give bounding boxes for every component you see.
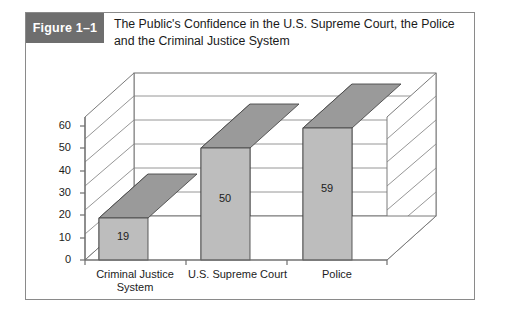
y-axis bbox=[80, 117, 85, 260]
bar-value-label-criminal-justice-system: 19 bbox=[106, 230, 140, 242]
figure-screenshot: Figure 1–1 The Public's Confidence in th… bbox=[0, 0, 505, 321]
x-axis bbox=[85, 260, 387, 265]
bar-value-label-us-supreme-court: 50 bbox=[208, 192, 242, 204]
x-category-label-criminal-justice-system: Criminal Justice System bbox=[80, 268, 190, 294]
x-category-label-police: Police bbox=[302, 268, 372, 281]
chart-canvas bbox=[25, 55, 475, 300]
y-tick-label-30: 30 bbox=[45, 186, 71, 198]
figure-title-line-1: The Public's Confidence in the U.S. Supr… bbox=[114, 16, 464, 33]
x-category-label-us-supreme-court: U.S. Supreme Court bbox=[180, 268, 295, 281]
y-tick-label-50: 50 bbox=[45, 141, 71, 153]
x-category-line-1: Criminal Justice bbox=[96, 268, 174, 280]
y-tick-label-60: 60 bbox=[45, 119, 71, 131]
bar-value-label-police: 59 bbox=[310, 182, 344, 194]
y-tick-label-0: 0 bbox=[45, 253, 71, 265]
y-tick-label-40: 40 bbox=[45, 164, 71, 176]
x-category-line-2: System bbox=[117, 281, 154, 293]
bar-chart-3d: 60 50 40 30 20 10 0 19 50 59 Criminal Ju… bbox=[25, 55, 475, 300]
figure-number-label: Figure 1–1 bbox=[26, 13, 104, 43]
figure-title: The Public's Confidence in the U.S. Supr… bbox=[114, 16, 464, 49]
y-tick-label-20: 20 bbox=[45, 208, 71, 220]
y-tick-label-10: 10 bbox=[45, 231, 71, 243]
figure-title-line-2: and the Criminal Justice System bbox=[114, 33, 464, 50]
